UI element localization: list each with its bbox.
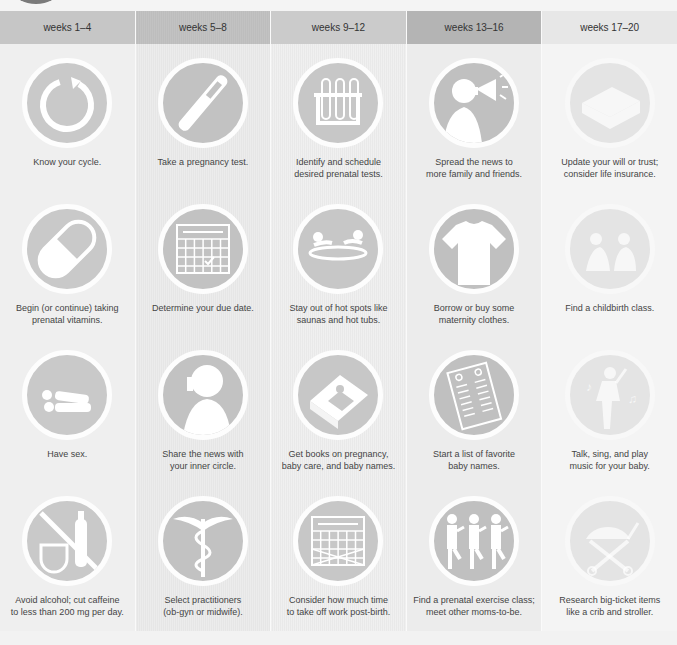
task-item: Have sex. [0, 336, 135, 482]
book-icon [293, 350, 383, 440]
bottom-strip [0, 631, 677, 645]
timeline-grid: weeks 1–4 Know your cycle. Begin (or con… [0, 11, 677, 631]
column-header: weeks 13–16 [407, 11, 542, 44]
column-weeks-17-20: weeks 17–20 Update your will or trust; c… [542, 11, 677, 631]
task-item: Borrow or buy some maternity clothes. [407, 190, 542, 336]
svg-text:♫: ♫ [628, 392, 637, 406]
vitamin-capsule-icon [22, 204, 112, 294]
couple-lying-icon [22, 350, 112, 440]
svg-text:♪: ♪ [586, 380, 592, 394]
task-caption: Spread the news to more family and frien… [409, 156, 539, 180]
task-caption: Research big-ticket items like a crib an… [545, 594, 675, 618]
task-caption: Find a prenatal exercise class; meet oth… [409, 594, 539, 618]
pregnancy-test-icon [158, 58, 248, 148]
t-shirt-icon [429, 204, 519, 294]
column-header: weeks 5–8 [136, 11, 271, 44]
megaphone-person-icon [429, 58, 519, 148]
calendar-check-icon [158, 204, 248, 294]
task-item: Find a childbirth class. [542, 190, 677, 336]
task-caption: Determine your due date. [138, 302, 268, 314]
task-item: Research big-ticket items like a crib an… [542, 482, 677, 628]
task-caption: Take a pregnancy test. [138, 156, 268, 168]
task-caption: Get books on pregnancy, baby care, and b… [273, 448, 403, 472]
task-item: Begin (or continue) taking prenatal vita… [0, 190, 135, 336]
task-caption: Start a list of favorite baby names. [409, 448, 539, 472]
task-item: Start a list of favorite baby names. [407, 336, 542, 482]
column-header: weeks 17–20 [542, 11, 677, 44]
childbirth-class-icon [565, 204, 655, 294]
task-item: Select practitioners (ob-gyn or midwife)… [136, 482, 271, 628]
document-box-icon [565, 58, 655, 148]
task-item: Determine your due date. [136, 190, 271, 336]
task-caption: Update your will or trust; consider life… [545, 156, 675, 180]
task-item: Know your cycle. [0, 44, 135, 190]
person-phone-icon [158, 350, 248, 440]
task-item: Find a prenatal exercise class; meet oth… [407, 482, 542, 628]
task-caption: Know your cycle. [2, 156, 132, 168]
task-item: Update your will or trust; consider life… [542, 44, 677, 190]
column-header: weeks 1–4 [0, 11, 135, 44]
task-item: Identify and schedule desired prenatal t… [271, 44, 406, 190]
stroller-icon [565, 496, 655, 586]
task-caption: Begin (or continue) taking prenatal vita… [2, 302, 132, 326]
task-caption: Consider how much time to take off work … [273, 594, 403, 618]
singing-person-icon: ♪♫ [565, 350, 655, 440]
task-caption: Borrow or buy some maternity clothes. [409, 302, 539, 326]
task-item: Consider how much time to take off work … [271, 482, 406, 628]
task-caption: Talk, sing, and play music for your baby… [545, 448, 675, 472]
calendar-crossed-icon [293, 496, 383, 586]
task-item: Take a pregnancy test. [136, 44, 271, 190]
task-item: Avoid alcohol; cut caffeine to less than… [0, 482, 135, 628]
column-weeks-9-12: weeks 9–12 Identify and schedule desired… [271, 11, 407, 631]
task-caption: Stay out of hot spots like saunas and ho… [273, 302, 403, 326]
column-weeks-5-8: weeks 5–8 Take a pregnancy test. Determi… [136, 11, 272, 631]
column-header: weeks 9–12 [271, 11, 406, 44]
top-tab-decoration [14, 0, 58, 4]
task-caption: Avoid alcohol; cut caffeine to less than… [2, 594, 132, 618]
task-item: ♪♫Talk, sing, and play music for your ba… [542, 336, 677, 482]
caduceus-icon [158, 496, 248, 586]
task-caption: Find a childbirth class. [545, 302, 675, 314]
task-caption: Select practitioners (ob-gyn or midwife)… [138, 594, 268, 618]
task-item: Spread the news to more family and frien… [407, 44, 542, 190]
test-tubes-icon [293, 58, 383, 148]
task-caption: Have sex. [2, 448, 132, 460]
column-weeks-13-16: weeks 13–16 Spread the news to more fami… [407, 11, 543, 631]
exercise-class-icon [429, 496, 519, 586]
task-item: Share the news with your inner circle. [136, 336, 271, 482]
column-weeks-1-4: weeks 1–4 Know your cycle. Begin (or con… [0, 11, 136, 631]
cycle-arrow-icon [22, 58, 112, 148]
hot-tub-icon [293, 204, 383, 294]
task-caption: Identify and schedule desired prenatal t… [273, 156, 403, 180]
no-alcohol-caffeine-icon [22, 496, 112, 586]
task-item: Get books on pregnancy, baby care, and b… [271, 336, 406, 482]
task-caption: Share the news with your inner circle. [138, 448, 268, 472]
task-item: Stay out of hot spots like saunas and ho… [271, 190, 406, 336]
name-list-icon [429, 350, 519, 440]
